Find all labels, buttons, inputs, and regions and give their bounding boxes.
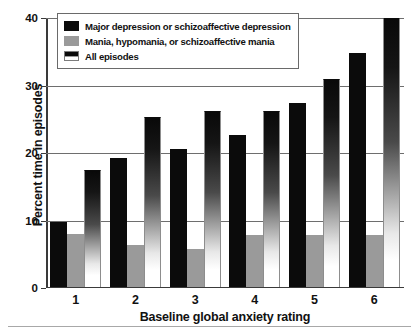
swatch-gradient-icon: [64, 51, 79, 61]
x-tick-label: 4: [251, 293, 258, 307]
chart-legend: Major depression or schizoaffective depr…: [57, 13, 299, 69]
legend-item: Major depression or schizoaffective depr…: [64, 19, 291, 33]
legend-item-label: All episodes: [85, 51, 139, 62]
x-axis-line: [46, 287, 404, 289]
bar: [349, 53, 366, 287]
y-tick-label: 20: [25, 147, 38, 159]
bar: [289, 103, 306, 287]
y-tick-label: 0: [32, 282, 38, 294]
bar: [84, 170, 101, 287]
bar: [263, 111, 280, 287]
bar: [383, 18, 400, 287]
y-tick-mark: [41, 153, 46, 154]
y-tick-mark: [41, 86, 46, 87]
bar: [366, 235, 383, 286]
bottom-divider: [8, 326, 411, 327]
y-tick-label: 10: [25, 215, 38, 227]
bar: [187, 249, 204, 287]
x-tick-label: 5: [311, 293, 318, 307]
bar: [246, 235, 263, 287]
x-axis-title: Baseline global anxiety rating: [46, 310, 404, 324]
legend-item: Mania, hypomania, or schizoaffective man…: [64, 34, 291, 48]
bar: [110, 158, 127, 286]
legend-item-label: Mania, hypomania, or schizoaffective man…: [85, 36, 274, 47]
bar: [306, 235, 323, 287]
bar: [323, 79, 340, 286]
bar-chart-figure: Percent time in episodes 010203040 12345…: [0, 0, 419, 333]
bar: [144, 117, 161, 286]
bar-group: [349, 18, 400, 287]
legend-item-label: Major depression or schizoaffective depr…: [85, 21, 291, 32]
y-tick-label: 40: [25, 12, 38, 24]
bar: [204, 111, 221, 287]
legend-item: All episodes: [64, 49, 291, 63]
x-tick-label: 3: [192, 293, 199, 307]
y-tick-mark: [41, 18, 46, 19]
bar: [229, 135, 246, 287]
bar: [170, 149, 187, 286]
y-tick-mark: [41, 221, 46, 222]
bar: [50, 222, 67, 286]
swatch-solid-black-icon: [64, 21, 79, 31]
swatch-solid-gray-icon: [64, 36, 79, 46]
y-tick-mark: [41, 288, 46, 289]
y-tick-label: 30: [25, 80, 38, 92]
bar: [67, 234, 84, 287]
x-tick-label: 1: [72, 293, 79, 307]
x-tick-label: 2: [132, 293, 139, 307]
x-tick-label: 6: [371, 293, 378, 307]
bar: [127, 245, 144, 287]
